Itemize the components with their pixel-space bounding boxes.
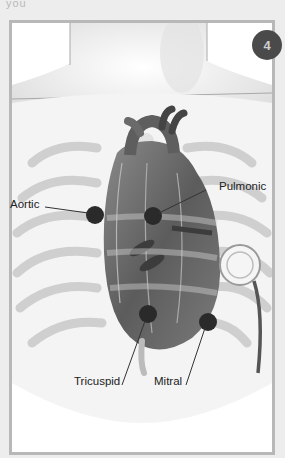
step-number-badge: 4 bbox=[252, 30, 282, 60]
pulmonic-marker bbox=[144, 207, 162, 225]
mitral-label: Mitral bbox=[154, 375, 182, 387]
pulmonic-label: Pulmonic bbox=[219, 180, 266, 192]
illustration-frame bbox=[9, 20, 275, 455]
mitral-marker bbox=[199, 313, 217, 331]
aortic-label: Aortic bbox=[10, 198, 39, 210]
cropped-page-text: you bbox=[6, 0, 27, 9]
tricuspid-label: Tricuspid bbox=[74, 375, 120, 387]
aortic-marker bbox=[86, 206, 104, 224]
heart-chest-illustration bbox=[12, 23, 272, 452]
tricuspid-marker bbox=[139, 305, 157, 323]
